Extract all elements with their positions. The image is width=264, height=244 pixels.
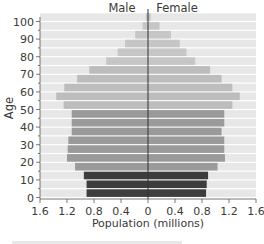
male-bar (77, 75, 148, 83)
male-bar (106, 57, 148, 65)
x-tick-label: 1.6 (247, 205, 264, 218)
female-bar (148, 22, 159, 30)
female-bar (148, 84, 232, 92)
female-bar (148, 137, 224, 145)
female-bar (148, 189, 206, 197)
female-bar (148, 40, 180, 48)
male-bar (75, 163, 148, 171)
x-tick-label: 1.2 (220, 205, 238, 218)
female-bar (148, 31, 171, 39)
y-tick-label: 90 (20, 33, 34, 46)
y-tick-label: 100 (13, 16, 34, 29)
male-bar (135, 31, 148, 39)
female-bar (148, 128, 222, 136)
male-bar (87, 189, 148, 197)
y-tick-label: 60 (20, 86, 34, 99)
female-bar (148, 49, 186, 57)
male-bar (143, 22, 148, 30)
male-bar (64, 84, 148, 92)
female-bar (148, 163, 218, 171)
male-bar (72, 119, 148, 127)
male-bar (72, 128, 148, 136)
female-bar (148, 57, 195, 65)
y-axis-ticks: 0102030405060708090100 (13, 16, 40, 205)
female-bar (148, 75, 222, 83)
y-tick-label: 10 (20, 174, 34, 187)
female-bar (148, 172, 208, 180)
y-axis-label: Age (2, 97, 16, 119)
female-bar (148, 101, 232, 109)
female-bar (148, 119, 224, 127)
female-bar (148, 93, 240, 101)
x-tick-label: 1.2 (58, 205, 76, 218)
male-bar (56, 93, 148, 101)
male-bar (87, 181, 148, 189)
y-tick-label: 50 (20, 104, 34, 117)
male-bar (125, 40, 148, 48)
y-tick-label: 70 (20, 68, 34, 81)
y-tick-label: 30 (20, 139, 34, 152)
male-bar (118, 49, 148, 57)
male-bar (89, 66, 148, 74)
y-tick-label: 20 (20, 156, 34, 169)
female-bar (148, 154, 225, 162)
male-bar (67, 154, 148, 162)
y-tick-label: 40 (20, 121, 34, 134)
legend-male: Male (108, 1, 135, 15)
x-axis-label: Population (millions) (92, 217, 204, 230)
female-bar (148, 181, 207, 189)
female-bar (148, 66, 210, 74)
x-axis-ticks: 1.61.20.80.400.40.81.21.6 (31, 199, 264, 218)
female-bar (148, 110, 224, 118)
y-tick-label: 0 (27, 192, 34, 205)
male-bar (84, 172, 148, 180)
y-tick-label: 80 (20, 51, 34, 64)
male-bar (64, 101, 148, 109)
male-bar (68, 145, 148, 153)
female-bar (148, 145, 224, 153)
male-bar (68, 137, 148, 145)
x-tick-label: 1.6 (31, 205, 49, 218)
male-bar (72, 110, 148, 118)
legend-female: Female (156, 1, 198, 15)
population-pyramid-chart: 0102030405060708090100 1.61.20.80.400.40… (0, 0, 264, 244)
